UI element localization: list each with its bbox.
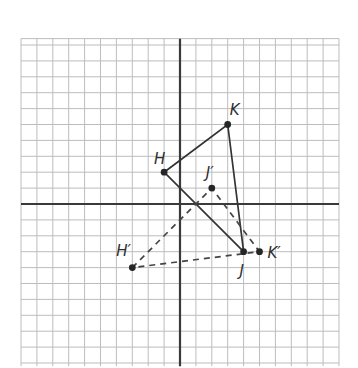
label-j-prime: J′ [203,164,214,182]
point-j [240,248,247,255]
point-k [224,121,231,128]
label-k-prime: K′ [268,244,282,262]
point-j-prime [208,185,215,192]
label-h-prime: H′ [116,242,131,260]
label-h: H [154,150,165,168]
label-j: J [237,262,244,280]
point-h-prime [129,264,136,271]
label-k: K [230,101,241,119]
point-h [161,169,168,176]
point-k-prime [256,248,263,255]
coordinate-plane-diagram: H K J H′ J′ K′ [0,0,358,368]
